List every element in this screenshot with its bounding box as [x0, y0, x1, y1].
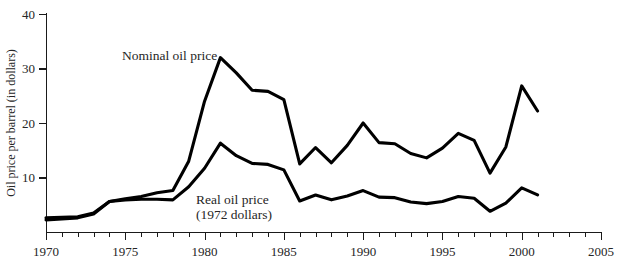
- real-series-label: Real oil price: [196, 192, 269, 207]
- x-tick-label-1995: 1995: [429, 244, 455, 259]
- y-axis-ticks: 10203040: [22, 7, 46, 186]
- x-axis-ticks: 19701975198019851990199520002005: [33, 232, 614, 259]
- y-axis-title: Oil price per barrel (in dollars): [4, 49, 18, 197]
- nominal-series-label: Nominal oil price: [122, 48, 217, 63]
- y-tick-label-10: 10: [22, 170, 35, 185]
- x-tick-label-1970: 1970: [33, 244, 59, 259]
- y-tick-label-40: 40: [22, 7, 35, 22]
- y-tick-label-30: 30: [22, 61, 35, 76]
- chart-canvas: 10203040 1970197519801985199019952000200…: [0, 0, 631, 261]
- x-tick-label-2000: 2000: [509, 244, 535, 259]
- x-tick-label-1975: 1975: [112, 244, 138, 259]
- oil-price-chart: 10203040 1970197519801985199019952000200…: [0, 0, 631, 261]
- x-tick-label-1985: 1985: [271, 244, 297, 259]
- x-tick-label-1980: 1980: [192, 244, 218, 259]
- x-tick-label-2005: 2005: [588, 244, 614, 259]
- data-series-group: [46, 58, 538, 220]
- real-series-sublabel: (1972 dollars): [196, 207, 272, 222]
- x-tick-label-1990: 1990: [350, 244, 376, 259]
- series-line-real-oil-price: [46, 143, 538, 218]
- y-tick-label-20: 20: [22, 116, 35, 131]
